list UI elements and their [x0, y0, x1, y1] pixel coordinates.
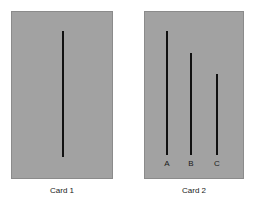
- card-2-panel: A B C: [144, 11, 244, 179]
- line-label-b: B: [184, 160, 198, 168]
- line-label-c: C: [210, 160, 224, 168]
- comparison-line-c: [216, 74, 218, 155]
- card-1-panel: [11, 11, 113, 179]
- asch-line-task-figure: Card 1 A B C Card 2: [0, 0, 255, 205]
- comparison-line-b: [190, 53, 192, 155]
- line-label-a: A: [160, 160, 174, 168]
- card-2-caption: Card 2: [144, 186, 244, 196]
- comparison-line-a: [166, 31, 168, 155]
- standard-line: [62, 31, 64, 157]
- card-1-caption: Card 1: [11, 186, 113, 196]
